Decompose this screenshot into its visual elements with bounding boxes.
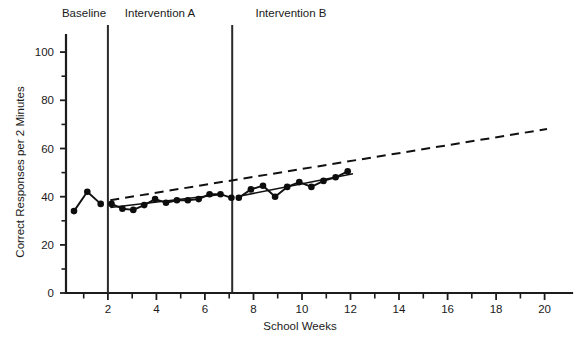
- x-tick-label: 20: [538, 303, 551, 315]
- data-point: [141, 202, 148, 209]
- series-intervention-a: [108, 191, 235, 213]
- y-axis-title: Correct Responses per 2 Minutes: [14, 86, 26, 258]
- y-tick-label: 0: [48, 287, 54, 299]
- x-tick-label: 12: [344, 303, 357, 315]
- series-baseline: [71, 189, 104, 215]
- data-point: [296, 179, 303, 186]
- x-tick-label: 10: [296, 303, 309, 315]
- data-point: [130, 207, 137, 214]
- data-point: [152, 196, 159, 203]
- data-point: [308, 184, 315, 191]
- x-tick-label: 2: [105, 303, 111, 315]
- y-tick-label: 60: [41, 143, 54, 155]
- series-intervention-b: [236, 168, 352, 201]
- y-axis-tick-labels: 100 80 60 40 20 0: [35, 46, 54, 299]
- data-point: [248, 186, 255, 193]
- phase-label-intervention-b: Intervention B: [256, 7, 327, 19]
- data-point: [260, 182, 267, 189]
- data-point: [284, 184, 291, 191]
- data-point: [119, 205, 126, 212]
- data-point: [163, 199, 170, 206]
- data-point: [108, 201, 115, 208]
- data-point: [272, 193, 279, 200]
- phase-label-baseline: Baseline: [62, 7, 106, 19]
- x-tick-label: 14: [393, 303, 406, 315]
- data-point: [185, 197, 192, 204]
- data-point: [195, 196, 202, 203]
- x-tick-label: 6: [202, 303, 208, 315]
- data-point: [174, 197, 181, 204]
- chart-container: Correct Responses per 2 Minutes School W…: [0, 0, 586, 341]
- data-point: [332, 174, 339, 181]
- phase-separator-lines: [108, 25, 232, 293]
- data-point: [236, 195, 243, 202]
- data-point: [217, 191, 224, 198]
- x-axis-title: School Weeks: [263, 320, 337, 332]
- phase-labels: Baseline Intervention A Intervention B: [62, 7, 327, 19]
- x-tick-label: 8: [250, 303, 256, 315]
- data-point: [84, 189, 91, 196]
- single-case-design-chart: Correct Responses per 2 Minutes School W…: [0, 0, 586, 341]
- x-tick-label: 4: [153, 303, 160, 315]
- data-point: [206, 191, 213, 198]
- data-point: [97, 201, 104, 208]
- y-tick-label: 40: [41, 191, 54, 203]
- data-point: [344, 168, 351, 175]
- x-tick-label: 18: [490, 303, 503, 315]
- data-point: [320, 178, 327, 185]
- y-tick-label: 20: [41, 239, 54, 251]
- data-point: [228, 195, 235, 202]
- data-point: [71, 208, 78, 215]
- phase-label-intervention-a: Intervention A: [125, 7, 196, 19]
- y-tick-label: 80: [41, 94, 54, 106]
- goal-aim-dashed-line: [110, 129, 547, 200]
- x-axis-tick-labels: 2 4 6 8 10 12 14 16 18 20: [105, 303, 551, 315]
- y-tick-label: 100: [35, 46, 54, 58]
- x-tick-label: 16: [441, 303, 454, 315]
